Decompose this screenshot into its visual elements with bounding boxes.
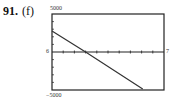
data-line [52, 31, 143, 89]
plot-area [52, 14, 164, 90]
chart [0, 0, 170, 100]
